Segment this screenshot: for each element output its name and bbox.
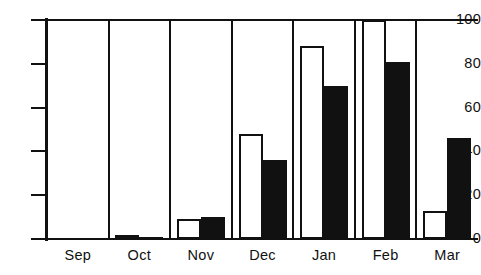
y-tick-20 bbox=[31, 194, 46, 196]
bar-oct-open bbox=[115, 235, 139, 239]
y-tick-100 bbox=[31, 19, 46, 21]
x-axis-tick-labels: SepOctNovDecJanFebMar bbox=[47, 248, 478, 272]
y-tick-60 bbox=[31, 107, 46, 109]
bar-nov-filled bbox=[201, 217, 225, 239]
bar-mar-filled bbox=[447, 138, 471, 239]
bar-feb-open bbox=[362, 20, 386, 239]
bar-dec-open bbox=[239, 134, 263, 239]
group-separator-jan bbox=[354, 20, 356, 239]
group-separator-feb bbox=[415, 20, 417, 239]
group-separator-sep bbox=[108, 20, 110, 239]
bar-jan-filled bbox=[324, 86, 348, 239]
bar-nov-open bbox=[177, 219, 201, 239]
x-tick-label-mar: Mar bbox=[416, 248, 478, 263]
group-separator-dec bbox=[292, 20, 294, 239]
bar-oct-filled bbox=[139, 237, 163, 239]
x-tick-label-feb: Feb bbox=[355, 248, 417, 263]
group-separator-oct bbox=[169, 20, 171, 239]
y-tick-40 bbox=[31, 150, 46, 152]
bar-feb-filled bbox=[386, 62, 410, 239]
bars-layer bbox=[47, 20, 478, 239]
bar-mar-open bbox=[423, 211, 447, 239]
x-tick-label-dec: Dec bbox=[232, 248, 294, 263]
x-tick-label-oct: Oct bbox=[109, 248, 171, 263]
group-separator-nov bbox=[231, 20, 233, 239]
x-tick-label-nov: Nov bbox=[170, 248, 232, 263]
bar-dec-filled bbox=[263, 160, 287, 239]
bar-chart: 020406080100 SepOctNovDecJanFebMar bbox=[0, 0, 481, 275]
x-tick-label-jan: Jan bbox=[293, 248, 355, 263]
y-tick-0 bbox=[31, 238, 46, 240]
x-tick-label-sep: Sep bbox=[47, 248, 109, 263]
y-tick-80 bbox=[31, 63, 46, 65]
bar-jan-open bbox=[300, 46, 324, 239]
